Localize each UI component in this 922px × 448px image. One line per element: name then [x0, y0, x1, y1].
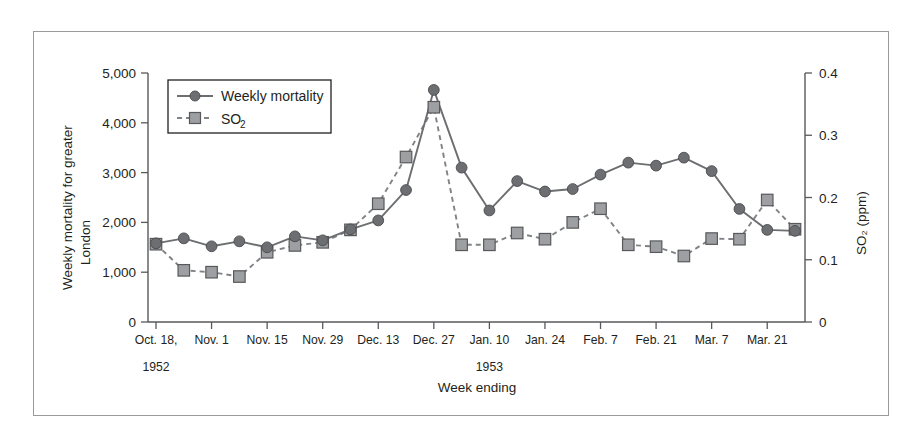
- data-point-weekly-mortality: [317, 235, 328, 246]
- data-point-so2: [206, 266, 218, 278]
- legend-label-so2: SO: [221, 111, 241, 127]
- chart-stage: 0 1,000 2,000 3,000 4,000 5,000 Weekly m…: [0, 0, 922, 448]
- data-point-weekly-mortality: [512, 176, 523, 187]
- left-tick-label-1000: 1,000: [102, 265, 136, 280]
- x-year-label-1952: 1952: [142, 360, 169, 374]
- data-point-so2: [706, 233, 718, 245]
- data-point-so2: [595, 203, 607, 215]
- right-axis-ticks: [805, 73, 812, 322]
- x-tick-label: Nov. 1: [194, 333, 229, 347]
- right-tick-label-01: 0.1: [819, 253, 838, 268]
- data-point-so2: [511, 227, 523, 239]
- data-point-weekly-mortality: [234, 236, 245, 247]
- data-point-weekly-mortality: [262, 242, 273, 253]
- right-axis: 0 0.1 0.2 0.3 0.4 SO₂ (ppm): [805, 66, 869, 330]
- data-point-weekly-mortality: [540, 186, 551, 197]
- left-tick-label-0: 0: [128, 315, 136, 330]
- x-year-label-1953: 1953: [476, 360, 503, 374]
- data-point-weekly-mortality: [178, 233, 189, 244]
- x-tick-label: Dec. 13: [357, 333, 399, 347]
- data-point-weekly-mortality: [567, 184, 578, 195]
- data-point-weekly-mortality: [706, 166, 717, 177]
- data-point-weekly-mortality: [373, 215, 384, 226]
- x-tick-label: Mar. 7: [695, 333, 729, 347]
- data-point-weekly-mortality: [484, 205, 495, 216]
- legend-label-weekly-mortality: Weekly mortality: [221, 88, 323, 104]
- data-point-weekly-mortality: [790, 225, 801, 236]
- data-point-weekly-mortality: [762, 224, 773, 235]
- x-axis-ticks: [156, 322, 767, 329]
- left-tick-label-2000: 2,000: [102, 215, 136, 230]
- x-tick-label: Oct. 18,: [135, 333, 178, 347]
- legend-label-so2-subscript: 2: [240, 119, 246, 130]
- data-point-weekly-mortality: [151, 238, 162, 249]
- data-point-weekly-mortality: [734, 204, 745, 215]
- left-tick-label-3000: 3,000: [102, 166, 136, 181]
- data-point-so2: [623, 239, 635, 251]
- data-point-so2: [428, 101, 440, 113]
- data-point-so2: [650, 241, 662, 253]
- left-axis-title-line2: London: [78, 220, 93, 265]
- x-tick-label: Dec. 27: [413, 333, 455, 347]
- data-point-so2: [734, 233, 746, 245]
- data-point-so2: [234, 271, 246, 283]
- left-tick-label-5000: 5,000: [102, 66, 136, 81]
- legend-marker-square-icon: [190, 113, 201, 124]
- data-point-weekly-mortality: [623, 157, 634, 168]
- data-point-so2: [400, 151, 412, 163]
- data-point-so2: [678, 250, 690, 262]
- data-point-so2: [539, 233, 551, 245]
- data-point-so2: [761, 194, 773, 206]
- x-tick-label: Feb. 21: [635, 333, 677, 347]
- x-tick-label: Nov. 29: [302, 333, 343, 347]
- x-tick-label: Nov. 15: [247, 333, 288, 347]
- data-point-so2: [484, 239, 496, 251]
- right-tick-label-03: 0.3: [819, 128, 838, 143]
- data-point-weekly-mortality: [595, 169, 606, 180]
- left-axis-title-line1: Weekly mortality for greater: [60, 125, 75, 290]
- x-tick-label: Jan. 10: [469, 333, 509, 347]
- left-axis-title: Weekly mortality for greater London: [60, 125, 93, 290]
- data-point-weekly-mortality: [651, 160, 662, 171]
- right-tick-label-04: 0.4: [819, 66, 838, 81]
- data-point-weekly-mortality: [290, 231, 301, 242]
- x-axis-title: Week ending: [438, 380, 517, 395]
- x-tick-label: Feb. 7: [583, 333, 618, 347]
- right-axis-title: SO₂ (ppm): [854, 191, 869, 255]
- data-point-weekly-mortality: [345, 224, 356, 235]
- data-point-so2: [567, 217, 579, 229]
- right-tick-label-02: 0.2: [819, 191, 838, 206]
- x-axis-tick-labels: Oct. 18,Nov. 1Nov. 15Nov. 29Dec. 13Dec. …: [135, 333, 788, 347]
- right-tick-label-0: 0: [819, 315, 827, 330]
- x-tick-label: Mar. 21: [747, 333, 788, 347]
- left-axis: 0 1,000 2,000 3,000 4,000 5,000: [102, 66, 148, 330]
- data-point-weekly-mortality: [678, 152, 689, 163]
- weekly-mortality-so2-chart: 0 1,000 2,000 3,000 4,000 5,000 Weekly m…: [0, 0, 922, 448]
- data-point-weekly-mortality: [456, 162, 467, 173]
- data-point-so2: [373, 198, 385, 210]
- data-point-weekly-mortality: [428, 85, 439, 96]
- left-axis-ticks: [141, 73, 148, 322]
- x-axis: Oct. 18,Nov. 1Nov. 15Nov. 29Dec. 13Dec. …: [135, 322, 805, 395]
- data-point-so2: [178, 265, 190, 277]
- data-point-weekly-mortality: [206, 241, 217, 252]
- x-tick-label: Jan. 24: [525, 333, 565, 347]
- data-point-weekly-mortality: [401, 185, 412, 196]
- left-tick-label-4000: 4,000: [102, 116, 136, 131]
- legend-marker-circle-icon: [190, 91, 200, 101]
- legend: Weekly mortality SO 2: [168, 80, 331, 133]
- data-point-so2: [456, 239, 468, 251]
